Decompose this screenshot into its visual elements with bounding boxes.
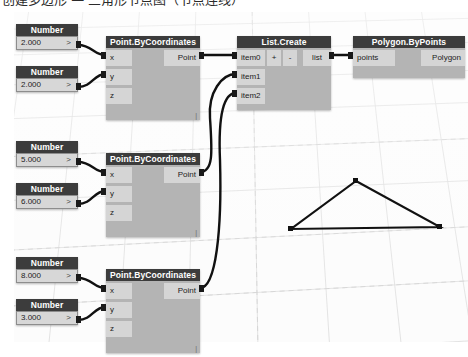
resize-handle[interactable]: | [195,345,197,352]
node-title: Point.ByCoordinates [106,153,200,165]
node-title: Point.ByCoordinates [106,36,200,48]
node-title: Number [16,299,78,311]
list-create-node[interactable]: List.Create item0 item1 item2 + - list [237,36,331,110]
chevron-right-icon[interactable]: > [66,38,71,47]
number-node-1[interactable]: Number 2.000 > [16,24,78,50]
port-nub [329,52,334,59]
port-nub [76,316,81,323]
point-bycoordinates-node-2[interactable]: Point.ByCoordinates x y z Point | [106,153,200,237]
input-port-y[interactable]: y [106,302,132,318]
node-body[interactable]: 2.000 > [16,36,78,50]
chevron-right-icon[interactable]: > [66,155,71,164]
output-port-point[interactable]: Point [164,283,200,299]
node-body[interactable]: x y z Point | [106,281,200,353]
output-port-polygon[interactable]: Polygon [421,50,465,66]
input-port-z[interactable]: z [106,205,132,221]
number-value[interactable]: 3.000 [21,313,41,322]
caption-strip: 创建多边形 — 三角形节点图（节点连线） [0,0,468,12]
port-nub [101,52,106,59]
port-nub [101,188,106,195]
output-port-point[interactable]: Point [164,50,200,66]
number-value[interactable]: 2.000 [21,80,41,89]
caption-text: 创建多边形 — 三角形节点图（节点连线） [2,0,244,8]
number-node-4[interactable]: Number 6.000 > [16,183,78,209]
input-port-item0[interactable]: item0 [237,50,265,66]
node-title: Number [16,66,78,78]
input-port-y[interactable]: y [106,69,132,85]
input-port-y[interactable]: y [106,186,132,202]
number-node-6[interactable]: Number 3.000 > [16,299,78,325]
chevron-right-icon[interactable]: > [66,80,71,89]
input-port-z[interactable]: z [106,321,132,337]
node-title: List.Create [237,36,331,48]
port-nub [76,41,81,48]
chevron-right-icon[interactable]: > [66,313,71,322]
dynamo-graph-screenshot: Number 2.000 > Number 2.000 > Number 5.0… [0,0,468,357]
number-value[interactable]: 5.000 [21,155,41,164]
resize-handle[interactable]: | [195,112,197,119]
node-body[interactable]: x y z Point | [106,165,200,237]
port-nub [232,52,237,59]
node-title: Polygon.ByPoints [353,36,465,48]
number-value[interactable]: 8.000 [21,271,41,280]
port-nub [101,304,106,311]
port-nub [101,285,106,292]
port-nub [232,90,237,97]
point-bycoordinates-node-1[interactable]: Point.ByCoordinates x y z Point | [106,36,200,120]
polygon-bypoints-node[interactable]: Polygon.ByPoints points Polygon [353,36,465,78]
chevron-right-icon[interactable]: > [66,271,71,280]
add-input-button[interactable]: + [267,50,281,66]
number-value[interactable]: 2.000 [21,38,41,47]
port-nub [76,200,81,207]
node-body[interactable]: item0 item1 item2 + - list [237,48,331,110]
input-port-z[interactable]: z [106,88,132,104]
input-port-item2[interactable]: item2 [237,88,265,104]
node-title: Number [16,257,78,269]
node-body[interactable]: 2.000 > [16,78,78,92]
port-nub [199,169,204,176]
chevron-right-icon[interactable]: > [66,197,71,206]
input-port-x[interactable]: x [106,50,132,66]
node-body[interactable]: 5.000 > [16,153,78,167]
port-nub [199,285,204,292]
port-nub [199,52,204,59]
node-body[interactable]: points Polygon [353,48,465,78]
port-nub [76,83,81,90]
output-port-point[interactable]: Point [164,167,200,183]
input-port-x[interactable]: x [106,283,132,299]
node-title: Number [16,183,78,195]
number-node-2[interactable]: Number 2.000 > [16,66,78,92]
port-nub [101,169,106,176]
node-title: Point.ByCoordinates [106,269,200,281]
port-nub [76,158,81,165]
remove-input-button[interactable]: - [283,50,297,66]
port-nub [232,71,237,78]
node-body[interactable]: 8.000 > [16,269,78,283]
number-node-3[interactable]: Number 5.000 > [16,141,78,167]
point-bycoordinates-node-3[interactable]: Point.ByCoordinates x y z Point | [106,269,200,353]
node-body[interactable]: x y z Point | [106,48,200,120]
port-nub [348,52,353,59]
node-body[interactable]: 6.000 > [16,195,78,209]
number-value[interactable]: 6.000 [21,197,41,206]
input-port-x[interactable]: x [106,167,132,183]
number-node-5[interactable]: Number 8.000 > [16,257,78,283]
port-nub [101,71,106,78]
node-body[interactable]: 3.000 > [16,311,78,325]
resize-handle[interactable]: | [195,229,197,236]
input-port-item1[interactable]: item1 [237,69,265,85]
input-port-points[interactable]: points [353,50,395,66]
port-nub [76,274,81,281]
output-port-list[interactable]: list [303,50,331,66]
node-title: Number [16,24,78,36]
node-title: Number [16,141,78,153]
